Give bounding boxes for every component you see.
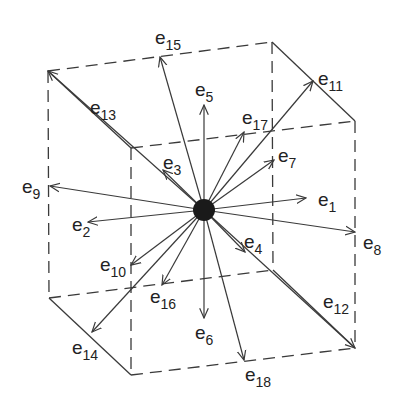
- vector-e2-arrow: [88, 210, 204, 222]
- label-subscript: 5: [206, 89, 214, 105]
- label-base: e: [242, 107, 253, 128]
- label-base: e: [155, 27, 166, 48]
- label-subscript: 2: [83, 224, 91, 240]
- label-base: e: [245, 364, 256, 385]
- label-subscript: 6: [206, 332, 214, 348]
- vector-label-e7: e7: [278, 146, 296, 170]
- vector-e11-arrow: [204, 81, 313, 210]
- label-base: e: [318, 68, 329, 89]
- vector-label-e9: e9: [22, 177, 40, 201]
- label-subscript: 18: [256, 374, 272, 390]
- label-base: e: [195, 322, 206, 343]
- vector-label-e5: e5: [195, 80, 213, 104]
- vector-label-e8: e8: [363, 233, 381, 257]
- label-base: e: [100, 254, 111, 275]
- vector-label-e18: e18: [245, 365, 271, 389]
- label-base: e: [318, 189, 329, 210]
- label-base: e: [72, 214, 83, 235]
- vector-label-e10: e10: [100, 255, 126, 279]
- vector-label-e11: e11: [318, 69, 343, 93]
- label-subscript: 12: [334, 301, 350, 317]
- label-subscript: 4: [255, 241, 263, 257]
- vector-label-e12: e12: [323, 292, 349, 316]
- label-subscript: 15: [166, 37, 182, 53]
- lattice-diagram: [0, 0, 403, 411]
- label-subscript: 1: [329, 199, 337, 215]
- label-subscript: 17: [253, 117, 269, 133]
- label-subscript: 10: [111, 264, 127, 280]
- vector-label-e1: e1: [318, 190, 336, 214]
- label-base: e: [363, 232, 374, 253]
- label-base: e: [22, 176, 33, 197]
- label-subscript: 9: [33, 186, 41, 202]
- vector-e16-arrow: [162, 210, 204, 285]
- label-subscript: 3: [174, 162, 182, 178]
- vector-e17-arrow: [204, 132, 244, 210]
- label-base: e: [163, 152, 174, 173]
- label-subscript: 7: [289, 155, 297, 171]
- label-subscript: 8: [374, 242, 382, 258]
- vector-label-e17: e17: [242, 108, 268, 132]
- label-subscript: 13: [101, 107, 117, 123]
- lattice-node: [193, 199, 215, 221]
- vector-label-e14: e14: [72, 338, 98, 362]
- label-base: e: [244, 231, 255, 252]
- label-base: e: [278, 145, 289, 166]
- vector-label-e3: e3: [163, 153, 181, 177]
- label-subscript: 16: [161, 296, 177, 312]
- vector-e12-arrow: [204, 210, 355, 348]
- vector-label-e13: e13: [90, 98, 116, 122]
- label-base: e: [90, 97, 101, 118]
- vector-label-e6: e6: [195, 323, 213, 347]
- label-subscript: 14: [83, 347, 99, 363]
- label-subscript: 11: [329, 78, 344, 94]
- vector-e10-arrow: [131, 210, 204, 265]
- label-base: e: [72, 337, 83, 358]
- label-base: e: [150, 286, 161, 307]
- vector-label-e2: e2: [72, 215, 90, 239]
- label-base: e: [195, 79, 206, 100]
- label-base: e: [323, 291, 334, 312]
- vector-label-e4: e4: [244, 232, 262, 256]
- vector-label-e15: e15: [155, 28, 181, 52]
- vector-label-e16: e16: [150, 287, 176, 311]
